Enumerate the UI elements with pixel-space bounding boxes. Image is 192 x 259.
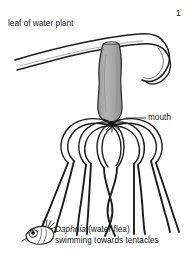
daphnia-common-name-text: (water flea)	[88, 225, 130, 234]
caption-line-2: swimming towards tentacles	[55, 236, 191, 246]
hydra-figure: leaf of water plant mouth 1 Daphnia (wat…	[0, 0, 192, 259]
daphnia-species-name: Daphnia	[55, 225, 86, 234]
hydra-illustration	[0, 0, 192, 259]
label-mouth: mouth	[148, 113, 171, 123]
label-leaf-of-water-plant: leaf of water plant	[8, 19, 74, 29]
hydra-body-column	[98, 42, 122, 122]
daphnia-caption: Daphnia (water flea) swimming towards te…	[55, 225, 191, 246]
water-plant-leaf	[15, 34, 171, 84]
caption-line-1: Daphnia (water flea)	[55, 225, 191, 235]
figure-number: 1	[176, 8, 181, 18]
daphnia-illustration	[22, 220, 56, 244]
